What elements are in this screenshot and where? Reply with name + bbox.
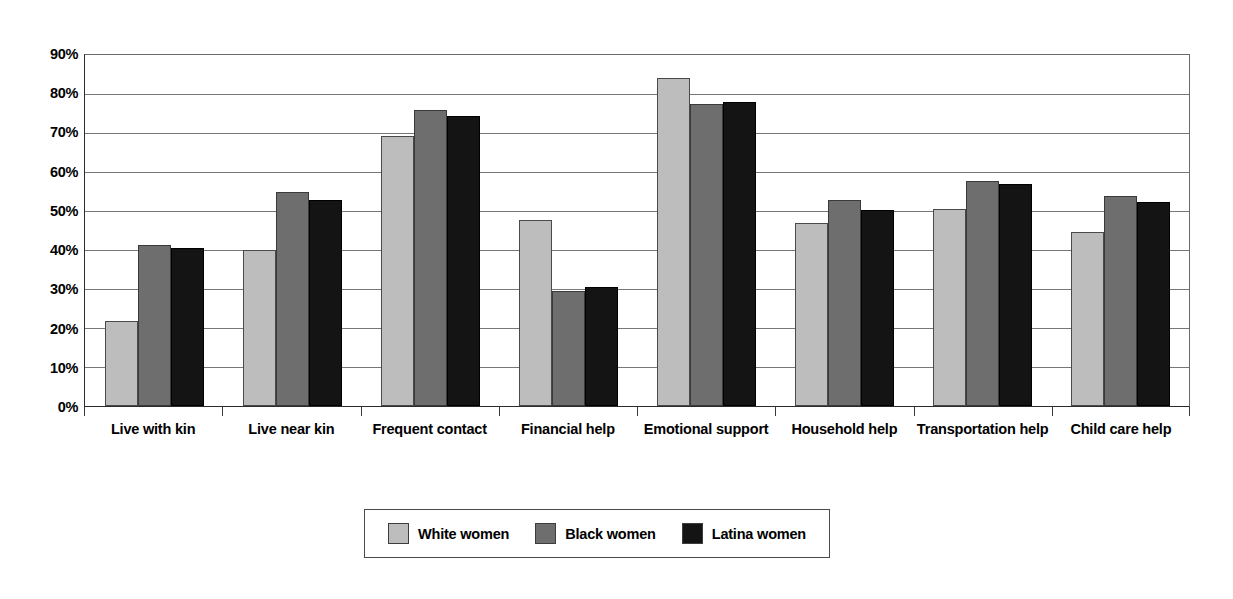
bar[interactable] [414, 110, 447, 406]
bar-group [775, 55, 913, 406]
y-axis-tick-label: 20% [30, 321, 78, 336]
bar-chart: 90%80%70%60%50%40%30%20%10%0% Live with … [0, 0, 1233, 599]
x-axis-category-label: Financial help [499, 420, 637, 440]
bar[interactable] [585, 287, 618, 406]
y-axis-tick-label: 0% [30, 400, 78, 415]
bar-group [913, 55, 1051, 406]
y-axis-tick-label: 80% [30, 86, 78, 101]
x-axis-tick [499, 407, 500, 416]
x-axis-category-label: Live near kin [222, 420, 360, 440]
bar-group [637, 55, 775, 406]
bar-group [85, 55, 223, 406]
x-axis-labels: Live with kinLive near kinFrequent conta… [84, 420, 1190, 440]
bar[interactable] [1071, 232, 1104, 406]
bar[interactable] [171, 248, 204, 406]
y-axis-tick-label: 10% [30, 361, 78, 376]
x-axis-ticks [84, 407, 1190, 416]
x-axis-category-label: Child care help [1052, 420, 1190, 440]
bar[interactable] [138, 245, 171, 406]
bar[interactable] [1104, 196, 1137, 406]
legend-item[interactable]: Latina women [682, 523, 806, 544]
bar[interactable] [999, 184, 1032, 406]
bar[interactable] [690, 104, 723, 406]
x-axis-category-label: Transportation help [914, 420, 1052, 440]
legend-swatch-latina-women [682, 523, 703, 544]
bar-group [1051, 55, 1189, 406]
bar[interactable] [966, 181, 999, 406]
bar[interactable] [828, 200, 861, 406]
y-axis-tick-label: 60% [30, 164, 78, 179]
legend-item-label: Latina women [712, 526, 806, 542]
x-axis-category-label: Live with kin [84, 420, 222, 440]
legend-item-label: Black women [565, 526, 655, 542]
bar[interactable] [933, 209, 966, 406]
plot-area [84, 54, 1190, 407]
x-axis-category-label: Household help [775, 420, 913, 440]
x-axis-tick [84, 407, 85, 416]
bar[interactable] [105, 321, 138, 406]
legend-item-label: White women [418, 526, 509, 542]
x-axis-tick [775, 407, 776, 416]
bar[interactable] [657, 78, 690, 406]
bar[interactable] [309, 200, 342, 406]
x-axis-category-label: Emotional support [637, 420, 775, 440]
chart-legend: White womenBlack womenLatina women [364, 509, 830, 558]
bar[interactable] [861, 210, 894, 406]
bar[interactable] [243, 250, 276, 406]
bar[interactable] [276, 192, 309, 407]
y-axis-tick-label: 40% [30, 243, 78, 258]
x-axis-tick [1052, 407, 1053, 416]
bar[interactable] [795, 223, 828, 406]
x-axis-tick [914, 407, 915, 416]
bar[interactable] [519, 220, 552, 406]
bar[interactable] [723, 102, 756, 406]
y-axis-tick-label: 90% [30, 47, 78, 62]
y-axis-tick-label: 50% [30, 204, 78, 219]
bar[interactable] [381, 136, 414, 406]
x-axis-tick [361, 407, 362, 416]
bar[interactable] [552, 291, 585, 406]
x-axis-tick [637, 407, 638, 416]
x-axis-category-label: Frequent contact [361, 420, 499, 440]
bar[interactable] [1137, 202, 1170, 406]
bar[interactable] [447, 116, 480, 406]
y-axis-tick-label: 70% [30, 125, 78, 140]
bar-group [223, 55, 361, 406]
legend-item[interactable]: White women [388, 523, 509, 544]
bar-group [361, 55, 499, 406]
x-axis-tick [1189, 407, 1190, 416]
legend-swatch-white-women [388, 523, 409, 544]
legend-swatch-black-women [535, 523, 556, 544]
bar-group [499, 55, 637, 406]
y-axis-tick-label: 30% [30, 282, 78, 297]
y-axis: 90%80%70%60%50%40%30%20%10%0% [30, 40, 78, 414]
bars-layer [85, 55, 1189, 406]
x-axis-tick [222, 407, 223, 416]
legend-item[interactable]: Black women [535, 523, 655, 544]
